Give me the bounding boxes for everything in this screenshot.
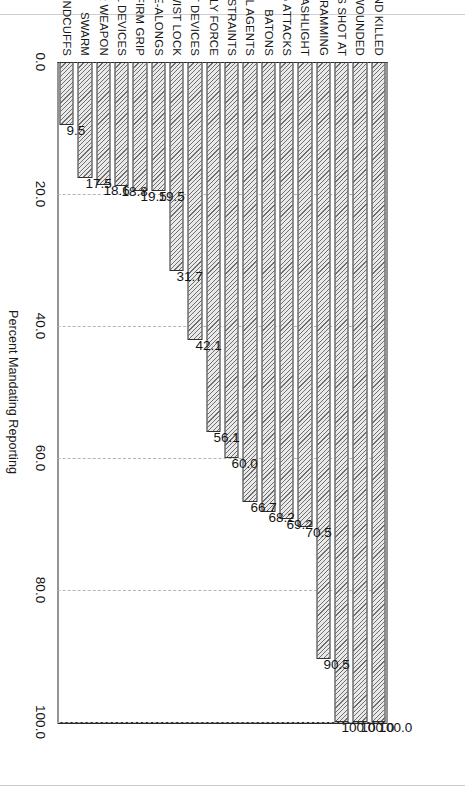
bar-item: 68.2 <box>261 62 276 722</box>
gridline <box>57 722 387 723</box>
axis-title: Percent Mandating Reporting <box>5 310 19 474</box>
bar-item: 69.2 <box>279 62 294 722</box>
bar-item: 18.6 <box>96 62 111 722</box>
bar-value-label: 31.7 <box>176 269 202 284</box>
value-tick-label: 60.0 <box>32 445 47 471</box>
category-label: BATONS <box>262 9 274 56</box>
bar-item: 9.5 <box>59 62 74 722</box>
bar <box>297 62 312 527</box>
category-label: NECK RESTRAINTS <box>225 0 237 56</box>
category-label: OTHER IMPACT DEVICES <box>189 0 201 56</box>
bar <box>59 62 74 125</box>
bar <box>371 62 386 722</box>
category-label: CIVILIANS SHOT AND KILLED <box>372 0 384 56</box>
bar <box>187 62 202 340</box>
category-label: COME-ALONGS <box>152 0 164 56</box>
bar <box>334 62 349 722</box>
category-label: HANDCUFFS <box>60 0 72 56</box>
bar <box>224 62 239 458</box>
bar-item: 17.5 <box>77 62 92 722</box>
category-label: ELECTRICAL DEVICES <box>115 0 127 56</box>
bar <box>242 62 257 502</box>
bar <box>96 62 111 185</box>
bar-item: 31.7 <box>169 62 184 722</box>
category-label: BODILY FORCE <box>207 0 219 56</box>
bar-value-label: 60.0 <box>231 456 257 471</box>
bar-value-label: 17.5 <box>85 175 111 190</box>
category-label: FIRM GRIP <box>134 0 146 56</box>
category-label: TWIST LOCK <box>170 0 182 56</box>
bar-item: 100.0 <box>371 62 386 722</box>
bar-item: 18.8 <box>114 62 129 722</box>
category-label: FLASHLIGHT <box>299 0 311 56</box>
value-axis-ticks: Percent Mandating Reporting 0.020.040.06… <box>0 62 57 722</box>
bar-value-label: 9.5 <box>66 122 85 137</box>
bar-chart: 100.0100.0100.090.570.569.268.266.760.05… <box>0 0 465 804</box>
value-tick-label: 0.0 <box>32 53 47 72</box>
value-tick-label: 80.0 <box>32 577 47 603</box>
bar-item: 60.0 <box>224 62 239 722</box>
value-tick-label: 20.0 <box>32 181 47 207</box>
bar <box>132 62 147 191</box>
bar-item: 19.5 <box>151 62 166 722</box>
bar <box>114 62 129 186</box>
bar-item: 66.7 <box>242 62 257 722</box>
category-label: CIVILIANS SHOT AND WOUNDED <box>354 0 366 56</box>
bar <box>316 62 331 659</box>
bar-item: 42.1 <box>187 62 202 722</box>
bar <box>151 62 166 191</box>
bar-value-label: 100.0 <box>341 720 375 735</box>
plot-area: 100.0100.0100.090.570.569.268.266.760.05… <box>57 62 387 722</box>
bar-value-label: 66.7 <box>250 500 276 515</box>
bar-item: 100.0 <box>334 62 349 722</box>
bar-value-label: 56.1 <box>213 430 239 445</box>
bar <box>206 62 221 432</box>
value-tick-label: 100.0 <box>32 705 47 739</box>
category-label: CHEMICAL AGENTS <box>244 0 256 56</box>
bar-value-label: 90.5 <box>323 657 349 672</box>
category-label: DOG ATTACKS <box>280 0 292 56</box>
bar-item: 19.5 <box>132 62 147 722</box>
bar <box>279 62 294 519</box>
bar-item: 70.5 <box>297 62 312 722</box>
bar-item: 90.5 <box>316 62 331 722</box>
category-label: VEHICLE RAMMING <box>317 0 329 56</box>
bar <box>77 62 92 178</box>
bar-value-label: 42.1 <box>195 337 221 352</box>
bar-item: 56.1 <box>206 62 221 722</box>
value-tick-label: 40.0 <box>32 313 47 339</box>
bar <box>169 62 184 271</box>
category-label: UNHOLSTER WEAPON <box>97 0 109 56</box>
category-label: CIVILIANS SHOT AT <box>335 0 347 56</box>
bar <box>352 62 367 722</box>
bar-series: 100.0100.0100.090.570.569.268.266.760.05… <box>57 62 387 722</box>
bar <box>261 62 276 512</box>
bar-item: 100.0 <box>352 62 367 722</box>
category-label: SWARM <box>79 12 91 56</box>
